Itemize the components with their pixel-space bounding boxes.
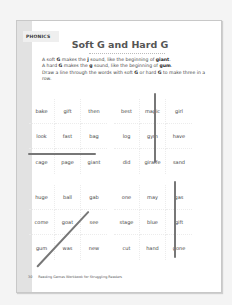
word-cell[interactable]: blue	[140, 210, 166, 235]
word-grid-3: huge ball gab come goat see gum was new	[29, 185, 107, 260]
word-cell[interactable]: come	[29, 210, 55, 235]
strike-line-grid1-row3	[28, 153, 96, 155]
word-cell[interactable]: girl	[166, 99, 192, 124]
word-cell[interactable]: giraffe	[140, 149, 166, 174]
word-cell[interactable]: bake	[29, 99, 55, 124]
strike-line-grid2-col2	[154, 93, 156, 163]
word-cell[interactable]: gym	[140, 124, 166, 149]
word-cell[interactable]: gas	[166, 185, 192, 210]
word-cell[interactable]: may	[140, 185, 166, 210]
word-cell[interactable]: gone	[166, 235, 192, 260]
instruction-line-3: Draw a line through the words with soft …	[42, 70, 212, 83]
word-grid-2: best magic girl log gym have did giraffe…	[114, 99, 192, 174]
word-cell[interactable]: gab	[81, 185, 107, 210]
word-cell[interactable]: gift	[55, 99, 81, 124]
word-cell[interactable]: ball	[55, 185, 81, 210]
word-cell[interactable]: huge	[29, 185, 55, 210]
word-grid-1: bake gift then look fast bag cage page g…	[29, 99, 107, 174]
word-cell[interactable]: gum	[29, 235, 55, 260]
word-cell[interactable]: have	[166, 124, 192, 149]
instructions: A soft G makes the j sound, like the beg…	[42, 57, 212, 82]
strike-line-grid4-col3	[174, 181, 176, 258]
workbook-page: PHONICS Soft G and Hard G A soft G makes…	[16, 20, 222, 293]
word-cell[interactable]: bag	[81, 124, 107, 149]
word-cell[interactable]: was	[55, 235, 81, 260]
page-title: Soft G and Hard G	[17, 39, 223, 50]
book-title: Reading Games Workbook for Struggling Re…	[38, 275, 122, 279]
word-cell[interactable]: new	[81, 235, 107, 260]
word-cell[interactable]: did	[114, 149, 140, 174]
word-cell[interactable]: look	[29, 124, 55, 149]
word-cell[interactable]: cut	[114, 235, 140, 260]
word-cell[interactable]: one	[114, 185, 140, 210]
word-cell[interactable]: sand	[166, 149, 192, 174]
word-cell[interactable]: magic	[140, 99, 166, 124]
page-number: 30	[28, 275, 32, 279]
word-cell[interactable]: then	[81, 99, 107, 124]
word-grid-4: one may gas stage blue gift cut hand gon…	[114, 185, 192, 260]
word-cell[interactable]: gift	[166, 210, 192, 235]
title-divider	[89, 53, 165, 55]
word-cell[interactable]: stage	[114, 210, 140, 235]
word-cell[interactable]: hand	[140, 235, 166, 260]
word-cell[interactable]: best	[114, 99, 140, 124]
word-cell[interactable]: fast	[55, 124, 81, 149]
page-footer: 30 Reading Games Workbook for Struggling…	[28, 275, 122, 279]
word-cell[interactable]: log	[114, 124, 140, 149]
